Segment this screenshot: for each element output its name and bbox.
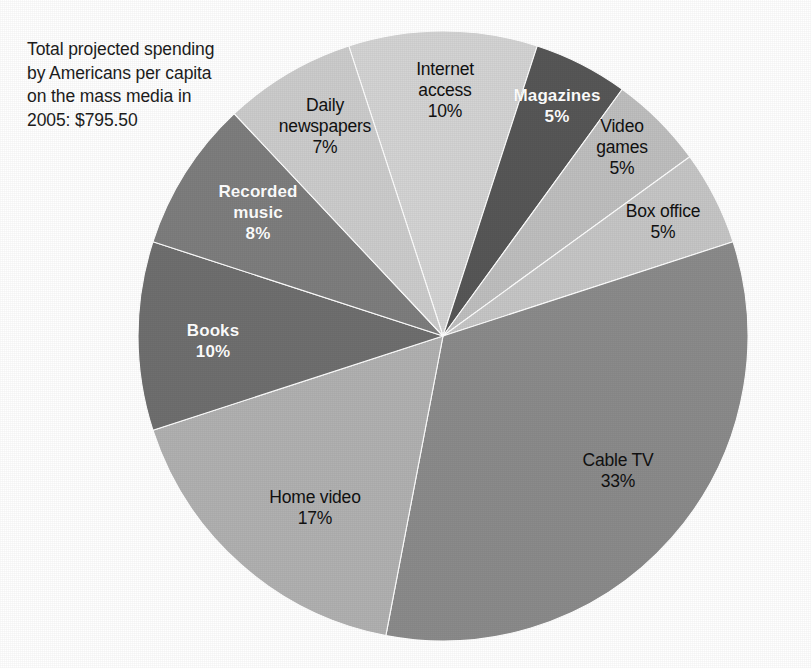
pie-label-cable-tv: Cable TV 33% (582, 450, 653, 492)
pie-label-books: Books 10% (187, 320, 239, 362)
chart-caption: Total projected spending by Americans pe… (27, 38, 262, 132)
pie-chart-figure: Total projected spending by Americans pe… (0, 0, 811, 668)
pie-label-video-games: Video games 5% (596, 116, 648, 179)
pie-label-daily-newspapers: Daily newspapers 7% (279, 95, 371, 158)
pie-label-internet-access: Internet access 10% (416, 59, 474, 122)
pie-label-recorded-music: Recorded music 8% (218, 181, 297, 244)
pie-label-magazines: Magazines 5% (514, 85, 601, 127)
pie-label-box-office: Box office 5% (626, 201, 701, 243)
pie-label-home-video: Home video 17% (269, 487, 360, 529)
